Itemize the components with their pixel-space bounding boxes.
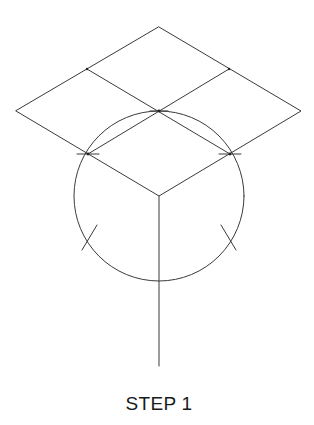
- point-lower-right: [229, 153, 232, 156]
- point-center: [158, 110, 161, 113]
- point-lower-left: [87, 153, 90, 156]
- isometric-construction-diagram: [0, 0, 314, 425]
- point-upper-right-mid: [228, 68, 230, 70]
- point-upper-left-mid: [86, 68, 88, 70]
- step-caption: STEP 1: [0, 393, 314, 415]
